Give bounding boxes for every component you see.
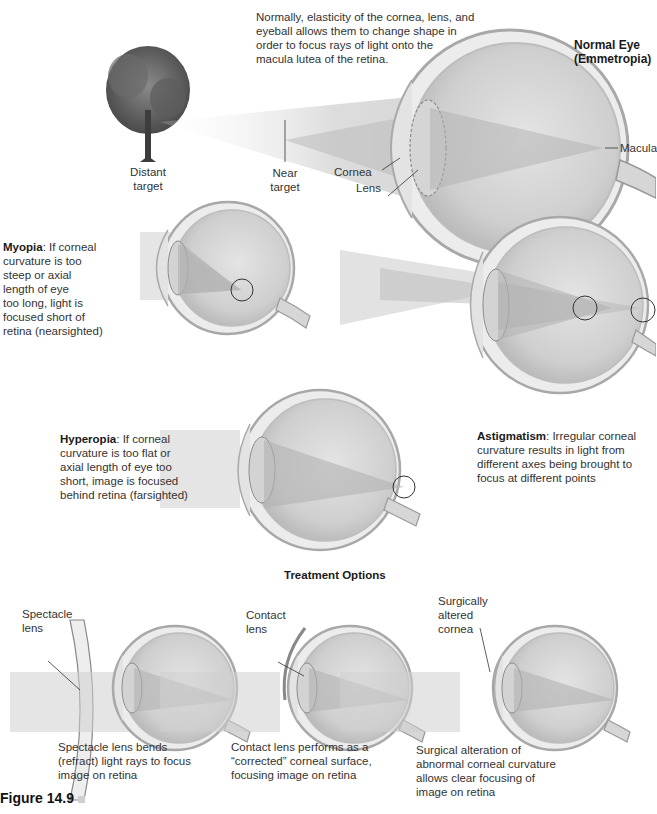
normal-eye-title: Normal Eye (Emmetropia) xyxy=(574,38,651,66)
hyperopia-line: behind retina (farsighted) xyxy=(60,488,220,502)
contact-label-line: Contact xyxy=(246,608,286,622)
contact-caption-line: “corrected” corneal surface, xyxy=(231,754,401,768)
surgical-caption: Surgical alteration of abnormal corneal … xyxy=(416,743,586,799)
surgical-caption-line: Surgical alteration of xyxy=(416,743,586,757)
hyperopia-description: Hyperopia: If corneal curvature is too f… xyxy=(60,432,220,502)
surgical-label-line: cornea xyxy=(438,622,488,636)
spectacle-caption-line: (refract) light rays to focus xyxy=(58,754,228,768)
surgical-caption-line: abnormal corneal curvature xyxy=(416,757,586,771)
myopia-term: Myopia xyxy=(3,241,43,253)
myopia-line: retina (nearsighted) xyxy=(3,324,153,338)
normal-eye-title-line2: (Emmetropia) xyxy=(574,52,651,66)
spectacle-caption-line: image on retina xyxy=(58,768,228,782)
cornea-label: Cornea xyxy=(334,165,372,179)
myopia-line: steep or axial xyxy=(3,268,153,282)
contact-caption-line: Contact lens performs as a xyxy=(231,740,401,754)
surgical-cornea-label: Surgically altered cornea xyxy=(438,594,488,636)
astigmatism-line: different axes being brought to xyxy=(477,457,657,471)
spectacle-caption: Spectacle lens bends (refract) light ray… xyxy=(58,740,228,782)
myopia-description: Myopia: If corneal curvature is too stee… xyxy=(3,240,153,338)
contact-lens-label: Contact lens xyxy=(246,608,286,636)
normal-eye-desc-line: Normally, elasticity of the cornea, lens… xyxy=(256,10,496,24)
macula-label: Macula xyxy=(620,141,657,155)
astigmatism-eye-illustration xyxy=(340,217,656,393)
lens-label: Lens xyxy=(356,181,381,195)
astigmatism-line: curvature results in light from xyxy=(477,443,657,457)
distant-target-line: target xyxy=(118,179,178,193)
figure-label-text: Figure 14.9 xyxy=(0,790,74,806)
normal-eye-desc-line: eyeball allows them to change shape in xyxy=(256,24,496,38)
myopia-line: : If corneal xyxy=(43,241,97,253)
myopia-eye-illustration xyxy=(140,202,310,334)
figure-marker-icon xyxy=(78,796,85,803)
surgical-label-line: altered xyxy=(438,608,488,622)
spectacle-label-line: Spectacle xyxy=(22,607,73,621)
astigmatism-line: : Irregular corneal xyxy=(546,430,636,442)
astigmatism-line: focus at different points xyxy=(477,471,657,485)
normal-eye-desc-line: order to focus rays of light onto the xyxy=(256,38,496,52)
near-target-label: Near target xyxy=(262,166,308,194)
hyperopia-line: axial length of eye too xyxy=(60,460,220,474)
normal-eye-description: Normally, elasticity of the cornea, lens… xyxy=(256,10,496,66)
distant-target-label: Distant target xyxy=(118,165,178,193)
normal-eye-title-line1: Normal Eye xyxy=(574,38,651,52)
spectacle-lens-label: Spectacle lens xyxy=(22,607,73,635)
myopia-line: length of eye xyxy=(3,282,153,296)
contact-caption: Contact lens performs as a “corrected” c… xyxy=(231,740,401,782)
figure-label: Figure 14.9 xyxy=(0,790,85,806)
tree-icon xyxy=(106,46,190,162)
hyperopia-line: : If corneal xyxy=(116,433,170,445)
hyperopia-line: short, image is focused xyxy=(60,474,220,488)
near-target-line: Near xyxy=(262,166,308,180)
hyperopia-term: Hyperopia xyxy=(60,433,116,445)
astigmatism-description: Astigmatism: Irregular corneal curvature… xyxy=(477,429,657,485)
distant-target-line: Distant xyxy=(118,165,178,179)
hyperopia-line: curvature is too flat or xyxy=(60,446,220,460)
treatment-options-heading: Treatment Options xyxy=(284,568,386,582)
surgical-caption-line: image on retina xyxy=(416,785,586,799)
surgical-label-line: Surgically xyxy=(438,594,488,608)
normal-eye-desc-line: macula lutea of the retina. xyxy=(256,52,496,66)
myopia-line: too long, light is xyxy=(3,296,153,310)
contact-caption-line: focusing image on retina xyxy=(231,768,401,782)
myopia-line: curvature is too xyxy=(3,254,153,268)
astigmatism-term: Astigmatism xyxy=(477,430,546,442)
surgical-caption-line: allows clear focusing of xyxy=(416,771,586,785)
contact-label-line: lens xyxy=(246,622,286,636)
myopia-line: focused short of xyxy=(3,310,153,324)
near-target-line: target xyxy=(262,180,308,194)
spectacle-caption-line: Spectacle lens bends xyxy=(58,740,228,754)
spectacle-label-line: lens xyxy=(22,621,73,635)
